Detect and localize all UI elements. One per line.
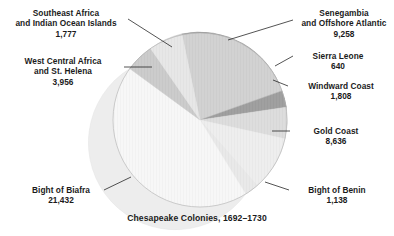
slice-value-southeast-africa: 1,777 bbox=[6, 29, 126, 39]
slice-value-west-central-africa: 3,956 bbox=[4, 77, 122, 87]
slice-label-senegambia-line1: Senegambia bbox=[296, 8, 392, 18]
chart-caption: Chesapeake Colonies, 1692–1730 bbox=[0, 213, 394, 223]
slice-label-bight-of-benin: Bight of Benin 1,138 bbox=[294, 185, 380, 206]
slice-label-west-central-africa-line1: West Central Africa bbox=[4, 56, 122, 66]
slice-label-sierra-leone: Sierra Leone 640 bbox=[296, 51, 380, 72]
slice-label-senegambia-line2: and Offshore Atlantic bbox=[296, 18, 392, 28]
slice-label-gold-coast: Gold Coast 8,636 bbox=[296, 126, 376, 147]
slice-label-bight-of-biafra: Bight of Biafra 21,432 bbox=[18, 185, 104, 206]
slice-label-windward-coast: Windward Coast 1,808 bbox=[294, 81, 388, 102]
slice-value-sierra-leone: 640 bbox=[296, 61, 380, 71]
slice-label-southeast-africa-line2: and Indian Ocean Islands bbox=[6, 18, 126, 28]
slice-label-west-central-africa: West Central Africa and St. Helena 3,956 bbox=[4, 56, 122, 87]
slice-value-bight-of-biafra: 21,432 bbox=[18, 195, 104, 205]
leader-line-bight-of-benin bbox=[265, 182, 289, 190]
slice-label-gold-coast-line1: Gold Coast bbox=[296, 126, 376, 136]
slice-value-gold-coast: 8,636 bbox=[296, 136, 376, 146]
slice-label-southeast-africa-line1: Southeast Africa bbox=[6, 8, 126, 18]
slice-value-senegambia: 9,258 bbox=[296, 29, 392, 39]
pie-chart-figure: Southeast Africa and Indian Ocean Island… bbox=[0, 0, 394, 236]
pie-texture-overlay bbox=[113, 33, 287, 207]
slice-label-sierra-leone-line1: Sierra Leone bbox=[296, 51, 380, 61]
slice-label-bight-of-biafra-line1: Bight of Biafra bbox=[18, 185, 104, 195]
slice-label-windward-coast-line1: Windward Coast bbox=[294, 81, 388, 91]
slice-label-senegambia: Senegambia and Offshore Atlantic 9,258 bbox=[296, 8, 392, 39]
leader-line-senegambia bbox=[228, 20, 293, 40]
leader-line-sierra-leone bbox=[275, 56, 293, 66]
slice-label-southeast-africa: Southeast Africa and Indian Ocean Island… bbox=[6, 8, 126, 39]
leader-line-southeast-africa bbox=[128, 19, 172, 47]
slice-value-bight-of-benin: 1,138 bbox=[294, 195, 380, 205]
slice-value-windward-coast: 1,808 bbox=[294, 91, 388, 101]
slice-label-bight-of-benin-line1: Bight of Benin bbox=[294, 185, 380, 195]
slice-label-west-central-africa-line2: and St. Helena bbox=[4, 66, 122, 76]
